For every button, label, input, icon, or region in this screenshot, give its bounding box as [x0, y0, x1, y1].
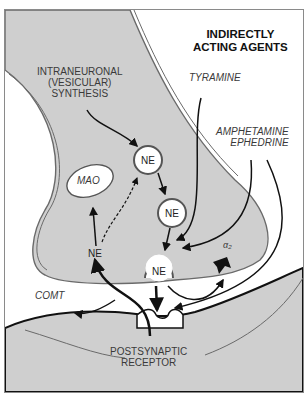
title-line-1: INDIRECTLY [193, 28, 288, 41]
receptor-line-1: POSTSYNAPTIC [110, 346, 187, 357]
postsynaptic-receptor-label: POSTSYNAPTIC RECEPTOR [110, 346, 187, 368]
synthesis-line-3: SYNTHESIS [37, 88, 123, 99]
free-ne: NE [83, 248, 107, 259]
receptor-line-2: RECEPTOR [110, 357, 187, 368]
comt-label: COMT [35, 290, 64, 301]
title-line-2: ACTING AGENTS [193, 41, 288, 54]
mao-label: MAO [77, 175, 100, 186]
vesicle-ne-top: NE [136, 155, 160, 166]
diagram-frame: INDIRECTLY ACTING AGENTS INTRANEURONAL (… [4, 9, 304, 393]
vesicle-ne-middle: NE [160, 208, 184, 219]
amphetamine-text: AMPHETAMINE [216, 126, 289, 137]
tyramine-label: TYRAMINE [189, 72, 241, 83]
synthesis-line-1: INTRANEURONAL [37, 66, 123, 77]
synthesis-line-2: (VESICULAR) [37, 77, 123, 88]
ephedrine-text: EPHEDRINE [216, 137, 289, 148]
postsynaptic-cell [5, 268, 303, 392]
synthesis-label: INTRANEURONAL (VESICULAR) SYNTHESIS [37, 66, 123, 99]
vesicle-ne-docked: NE [147, 266, 171, 277]
amphetamine-ephedrine-label: AMPHETAMINE EPHEDRINE [216, 126, 289, 148]
alpha2-label: α₂ [223, 240, 232, 251]
diagram-title: INDIRECTLY ACTING AGENTS [193, 28, 288, 54]
